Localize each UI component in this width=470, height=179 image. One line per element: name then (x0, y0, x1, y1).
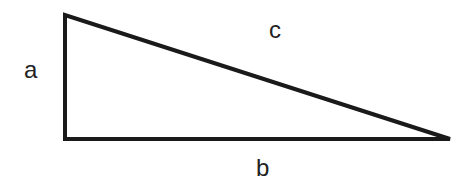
triangle (65, 15, 450, 139)
side-c-label: c (269, 16, 281, 43)
side-b-label: b (256, 154, 269, 179)
right-triangle-diagram: a c b (0, 0, 470, 179)
side-a-label: a (24, 56, 38, 83)
